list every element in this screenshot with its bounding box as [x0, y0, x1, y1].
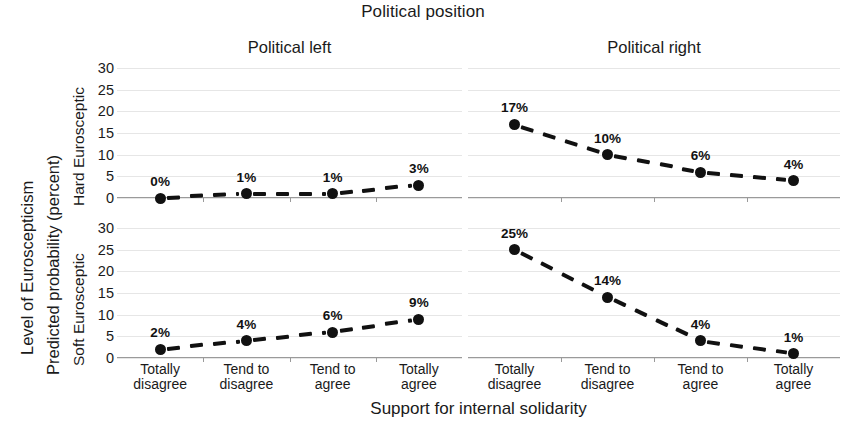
y-tick-soft-20: 20 — [88, 264, 114, 278]
data-point-label: 3% — [409, 161, 429, 176]
y-tick-soft-15: 15 — [88, 286, 114, 300]
line-dash — [521, 125, 535, 133]
line-dash — [659, 162, 673, 168]
data-point-label: 4% — [237, 317, 257, 332]
x-tick-mark — [376, 198, 377, 202]
x-tick-line2: agree — [739, 377, 846, 392]
data-point-marker — [241, 188, 252, 199]
row-title-hard-eurosceptic: Hard Eurosceptic — [70, 87, 88, 206]
figure-canvas: Political position Political left Politi… — [0, 0, 846, 425]
x-tick-right-3: Totallyagree — [739, 362, 846, 392]
gridline — [117, 90, 462, 91]
panel-title-political-right: Political right — [468, 38, 840, 57]
data-point-marker — [509, 119, 520, 130]
data-point-label: 9% — [409, 295, 429, 310]
line-dash — [253, 192, 266, 196]
gridline — [117, 250, 462, 251]
x-tick-mark — [747, 198, 748, 202]
line-dash — [362, 187, 375, 192]
x-tick-line2: agree — [364, 377, 474, 392]
line-dash — [776, 177, 787, 182]
data-point-label: 4% — [784, 157, 804, 172]
data-point-marker — [327, 327, 338, 338]
line-dash — [753, 175, 766, 180]
line-dash — [730, 343, 743, 349]
data-point-label: 4% — [691, 317, 711, 332]
y-tick-hard-10: 10 — [88, 148, 114, 162]
gridline — [468, 293, 840, 294]
line-dash — [655, 318, 668, 327]
line-dash — [339, 327, 352, 333]
line-dash — [167, 345, 180, 350]
y-tick-soft-30: 30 — [88, 221, 114, 235]
line-dash — [637, 158, 651, 164]
gridline — [468, 155, 840, 156]
data-point-label: 0% — [150, 174, 170, 189]
data-point-marker — [695, 335, 706, 346]
x-tick-mark — [654, 198, 655, 202]
y-axis-title-inner: Predicted probability (percent) — [44, 155, 63, 375]
y-tick-hard-5: 5 — [88, 169, 114, 183]
data-point-label: 6% — [691, 148, 711, 163]
data-point-label: 1% — [237, 170, 257, 185]
line-dash — [564, 139, 578, 147]
plot-soft-eurosceptic-political-right: 25%14%4%1% — [468, 228, 840, 358]
gridline — [468, 271, 840, 272]
data-point-marker — [602, 149, 613, 160]
line-dash — [190, 343, 203, 348]
y-tick-hard-15: 15 — [88, 126, 114, 140]
gridline — [117, 68, 462, 69]
y-tick-soft-25: 25 — [88, 243, 114, 257]
y-axis-title-outer: Level of Euroscepticism — [18, 181, 37, 355]
line-dash — [276, 334, 289, 339]
gridline — [468, 90, 840, 91]
line-dash — [322, 192, 325, 196]
line-dash — [362, 324, 375, 330]
line-dash — [753, 346, 766, 352]
line-dash — [408, 184, 412, 188]
data-point-marker — [602, 292, 613, 303]
figure-title: Political position — [0, 2, 846, 22]
line-dash — [540, 262, 553, 271]
data-point-label: 10% — [594, 131, 621, 146]
line-dash — [299, 192, 312, 196]
y-tick-hard-20: 20 — [88, 104, 114, 118]
data-point-marker — [155, 193, 166, 204]
gridline — [468, 250, 840, 251]
line-dash — [236, 192, 240, 196]
y-tick-soft-10: 10 — [88, 308, 114, 322]
line-dash — [407, 318, 412, 323]
data-point-marker — [413, 314, 424, 325]
row-title-soft-eurosceptic: Soft Eurosceptic — [70, 253, 88, 366]
line-dash — [322, 331, 326, 335]
line-dash — [730, 173, 743, 178]
y-tick-hard-25: 25 — [88, 83, 114, 97]
gridline — [117, 293, 462, 294]
line-dash — [561, 272, 574, 281]
gridline — [117, 271, 462, 272]
line-dash — [707, 340, 720, 346]
line-dash — [682, 167, 694, 173]
x-tick-mark — [561, 198, 562, 202]
line-dash — [236, 339, 240, 343]
gridline — [468, 315, 840, 316]
plot-hard-eurosceptic-political-left: 0%1%1%3% — [117, 68, 462, 198]
line-dash — [581, 283, 594, 292]
gridline — [468, 133, 840, 134]
data-point-label: 1% — [323, 170, 343, 185]
y-tick-hard-0: 0 — [88, 191, 114, 205]
data-point-marker — [413, 180, 424, 191]
x-tick-left-3: Totallyagree — [364, 362, 474, 392]
line-dash — [276, 192, 289, 196]
data-point-label: 1% — [784, 330, 804, 345]
x-tick-line1: Totally — [364, 362, 474, 377]
data-point-marker — [509, 244, 520, 255]
plot-soft-eurosceptic-political-left: 2%4%6%9% — [117, 228, 462, 358]
data-point-label: 14% — [594, 273, 621, 288]
y-tick-hard-30: 30 — [88, 61, 114, 75]
gridline — [117, 155, 462, 156]
line-dash — [167, 195, 180, 200]
gridline — [117, 133, 462, 134]
line-dash — [707, 171, 720, 176]
x-tick-mark — [290, 198, 291, 202]
